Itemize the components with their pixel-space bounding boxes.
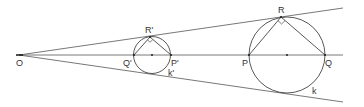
center-small-dot [151, 54, 153, 56]
label-p-prime: P' [171, 58, 179, 68]
lower-ray [19, 55, 343, 102]
point-q-prime [133, 54, 135, 56]
upper-ray [19, 8, 343, 55]
right-angle-small-icon [148, 40, 153, 43]
point-q [324, 54, 326, 56]
homothety-diagram: O R' Q' P' k' R P Q k [0, 0, 364, 107]
point-p-prime [170, 54, 172, 56]
label-k: k [312, 86, 317, 96]
label-r: R [278, 5, 285, 15]
point-p [248, 54, 250, 56]
label-q: Q [325, 58, 332, 68]
label-r-prime: R' [145, 25, 153, 35]
label-k-prime: k' [168, 68, 175, 78]
point-r [280, 16, 282, 18]
center-big-dot [286, 54, 288, 56]
label-o: O [16, 58, 23, 68]
label-p: P [242, 58, 248, 68]
right-angle-big-icon [278, 21, 285, 24]
triangle-big [249, 17, 325, 55]
point-r-prime [149, 36, 151, 38]
label-q-prime: Q' [123, 58, 132, 68]
triangle-small [134, 37, 171, 55]
